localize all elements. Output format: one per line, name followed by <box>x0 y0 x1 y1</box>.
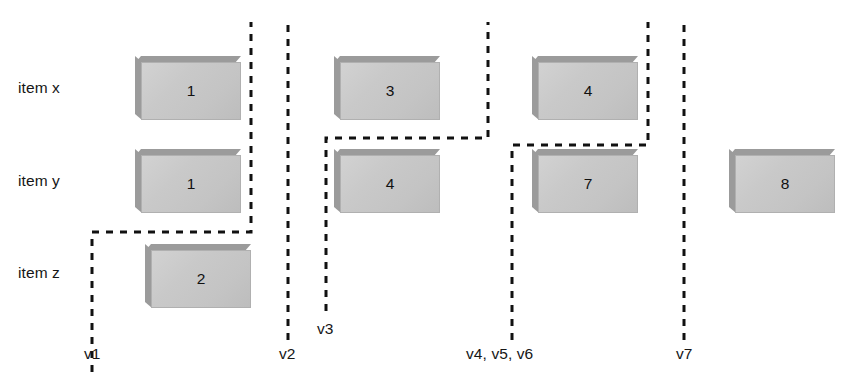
box-version-number: 7 <box>538 155 638 213</box>
version-timeline-diagram: 13414782 item xitem yitem z v1v2v3v4, v5… <box>0 0 857 387</box>
box-version-number: 8 <box>735 155 835 213</box>
box-version-number: 1 <box>141 155 241 213</box>
item-box-y-4: 4 <box>334 149 440 213</box>
version-label-v1: v1 <box>84 345 101 363</box>
item-box-y-1: 1 <box>135 149 241 213</box>
box-version-number: 3 <box>340 62 440 120</box>
version-label-v456: v4, v5, v6 <box>466 345 533 363</box>
box-version-number: 4 <box>340 155 440 213</box>
version-label-v2: v2 <box>279 345 296 363</box>
box-version-number: 1 <box>141 62 241 120</box>
version-label-v3: v3 <box>317 320 334 338</box>
box-version-number: 4 <box>538 62 638 120</box>
item-box-x-1: 1 <box>135 56 241 120</box>
version-label-v7: v7 <box>676 345 693 363</box>
item-box-y-7: 7 <box>532 149 638 213</box>
box-version-number: 2 <box>151 250 251 308</box>
row-label-item-y: item y <box>18 172 60 190</box>
item-box-y-8: 8 <box>729 149 835 213</box>
row-label-item-x: item x <box>18 79 60 97</box>
item-box-x-4: 4 <box>532 56 638 120</box>
item-box-z-2: 2 <box>145 244 251 308</box>
row-label-item-z: item z <box>18 264 60 282</box>
item-box-x-3: 3 <box>334 56 440 120</box>
